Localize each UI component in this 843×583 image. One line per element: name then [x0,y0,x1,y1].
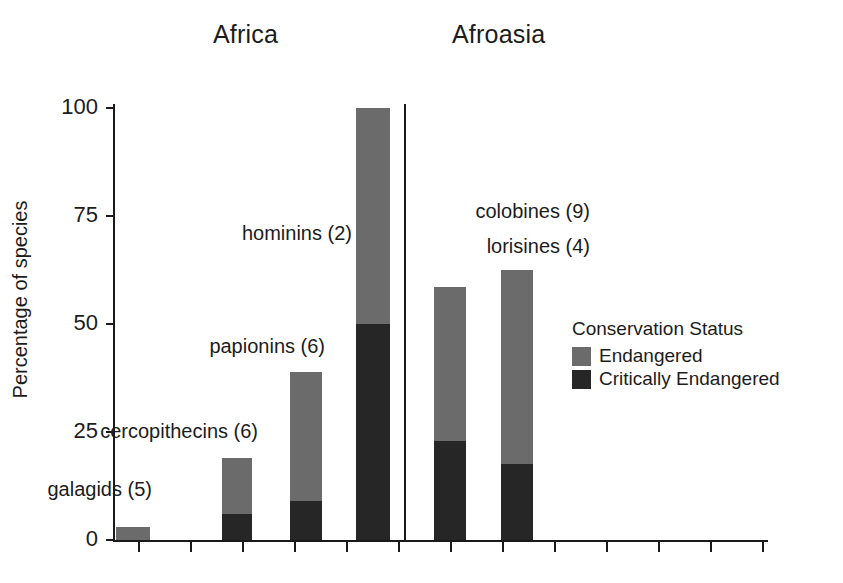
x-axis-line [113,540,768,542]
bar-segment-endangered-galagids[interactable] [116,527,150,540]
legend-label-1: Endangered [599,345,703,367]
bar-colobines[interactable] [434,287,466,540]
bar-segment-critically-endangered-lorisines[interactable] [501,464,533,540]
x-tick-5 [346,542,348,552]
x-tick-11 [658,542,660,552]
bar-cercopithecins[interactable] [222,458,252,540]
y-tick-label-75: 75 [42,204,98,226]
legend-swatch-2 [572,370,591,389]
legend-item-2[interactable]: Critically Endangered [572,368,780,390]
legend: Conservation Status EndangeredCritically… [572,318,780,390]
y-tick-label-50: 50 [42,312,98,334]
x-tick-9 [554,542,556,552]
y-tick-label-0: 0 [42,528,98,550]
x-tick-3 [242,542,244,552]
stacked-bar-chart: Africa Afroasia Percentage of species 10… [0,0,843,583]
bar-segment-endangered-cercopithecins[interactable] [222,458,252,514]
x-tick-2 [190,542,192,552]
group-divider-line [404,104,406,542]
bar-galagids[interactable] [116,527,150,540]
bar-segment-endangered-colobines[interactable] [434,287,466,440]
bar-segment-endangered-hominins[interactable] [356,108,390,324]
legend-title: Conservation Status [572,318,780,340]
y-tick-0 [106,539,114,541]
bar-label-colobines: colobines (9) [475,200,590,223]
bar-label-galagids: galagids (5) [47,478,152,501]
bar-label-lorisines: lorisines (4) [487,235,590,258]
bar-label-cercopithecins: cercopithecins (6) [100,420,258,443]
bar-segment-critically-endangered-papionins[interactable] [290,501,322,540]
x-tick-7 [450,542,452,552]
x-tick-10 [606,542,608,552]
x-tick-6 [398,542,400,552]
y-tick-100 [106,107,114,109]
y-tick-label-25: 25 [42,420,98,442]
group-title-africa: Africa [213,20,278,49]
bar-segment-critically-endangered-hominins[interactable] [356,324,390,540]
x-tick-12 [710,542,712,552]
y-tick-label-100: 100 [42,96,98,118]
x-tick-8 [502,542,504,552]
y-tick-50 [106,323,114,325]
legend-swatch-1 [572,347,591,366]
x-tick-4 [294,542,296,552]
bar-hominins[interactable] [356,108,390,540]
bar-segment-critically-endangered-cercopithecins[interactable] [222,514,252,540]
bar-segment-critically-endangered-colobines[interactable] [434,441,466,540]
y-tick-75 [106,215,114,217]
bar-segment-endangered-lorisines[interactable] [501,270,533,464]
legend-label-2: Critically Endangered [599,368,780,390]
bar-lorisines[interactable] [501,270,533,540]
x-tick-1 [138,542,140,552]
y-axis-title-wrapper: Percentage of species [9,135,32,465]
bar-label-papionins: papionins (6) [209,335,325,358]
legend-item-1[interactable]: Endangered [572,345,780,367]
group-title-afroasia: Afroasia [452,20,545,49]
x-tick-13 [762,542,764,552]
bar-segment-endangered-papionins[interactable] [290,372,322,502]
bar-papionins[interactable] [290,372,322,540]
bar-label-hominins: hominins (2) [242,222,352,245]
legend-items: EndangeredCritically Endangered [572,345,780,390]
y-axis-title: Percentage of species [9,201,31,399]
